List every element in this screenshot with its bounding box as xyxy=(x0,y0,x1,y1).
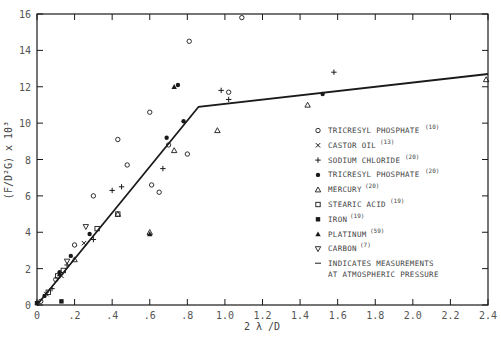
data-point xyxy=(148,110,152,114)
x-tick-label: 1.8 xyxy=(366,310,384,321)
legend-label: TRICRESYL PHOSPHATE xyxy=(328,126,420,135)
x-tick-label: 1.6 xyxy=(329,310,347,321)
legend-item: TRICRESYL PHOSPHATE(10) xyxy=(316,123,440,135)
series-sodium-chloride-20 xyxy=(49,70,336,292)
data-point xyxy=(157,190,161,194)
legend-marker-icon xyxy=(315,247,320,252)
legend-item: CASTOR OIL(13) xyxy=(316,138,395,150)
data-point xyxy=(87,232,91,236)
y-tick-label: 8 xyxy=(25,155,31,166)
legend-reference: (7) xyxy=(360,241,371,248)
data-point xyxy=(83,225,88,230)
data-point xyxy=(160,166,165,171)
data-point xyxy=(109,188,114,193)
data-point xyxy=(164,135,168,139)
data-point xyxy=(226,97,231,102)
legend-label: TRICRESYL PHOSPHATE xyxy=(328,170,420,179)
data-point xyxy=(69,254,73,258)
y-axis-title: (F/D²G) x 10³ xyxy=(3,121,14,199)
legend-marker-icon xyxy=(316,217,320,221)
data-point xyxy=(91,194,95,198)
legend-marker-icon xyxy=(315,231,320,236)
legend-label: CASTOR OIL xyxy=(328,141,376,150)
legend: TRICRESYL PHOSPHATE(10)CASTOR OIL(13)SOD… xyxy=(315,123,439,279)
legend-note-line2: AT ATMOSPHERIC PRESSURE xyxy=(328,270,439,279)
legend-item: CARBON(7) xyxy=(315,241,371,253)
legend-label: IRON xyxy=(328,215,347,224)
legend-label: MERCURY xyxy=(328,185,362,194)
legend-marker-icon xyxy=(316,173,320,177)
legend-item: PLATINUM(59) xyxy=(315,227,384,239)
data-point xyxy=(305,102,310,107)
data-point xyxy=(35,301,39,305)
legend-label: CARBON xyxy=(328,244,357,253)
legend-reference: (20) xyxy=(425,167,439,174)
legend-item: STEARIC ACID(19) xyxy=(316,197,405,209)
data-point xyxy=(149,183,153,187)
data-point xyxy=(119,184,124,189)
y-tick-label: 12 xyxy=(19,82,31,93)
data-point xyxy=(185,152,189,156)
x-tick-label: 1.2 xyxy=(253,310,271,321)
legend-item: MERCURY(20) xyxy=(315,182,379,194)
x-tick-label: .6 xyxy=(144,310,156,321)
legend-note-line1: INDICATES MEASUREMENTS xyxy=(328,259,434,268)
legend-marker-icon xyxy=(315,187,320,192)
x-tick-label: 1.4 xyxy=(291,310,309,321)
data-point xyxy=(116,137,120,141)
data-point xyxy=(125,163,129,167)
y-tick-label: 10 xyxy=(19,118,31,129)
x-tick-label: 2.0 xyxy=(404,310,422,321)
legend-item: IRON(19) xyxy=(316,212,365,224)
data-point xyxy=(320,92,324,96)
x-axis-title: 2 λ /D xyxy=(244,321,280,332)
legend-note: INDICATES MEASUREMENTSAT ATMOSPHERIC PRE… xyxy=(315,259,439,279)
legend-label: STEARIC ACID xyxy=(328,200,386,209)
legend-reference: (19) xyxy=(350,212,364,219)
chart: 0.2.4.6.81.01.21.41.61.82.02.22.4 024681… xyxy=(0,0,501,345)
legend-reference: (20) xyxy=(365,182,379,189)
x-tick-label: .8 xyxy=(181,310,193,321)
x-tick-label: 1.0 xyxy=(216,310,234,321)
legend-marker-icon xyxy=(315,157,320,162)
legend-reference: (19) xyxy=(390,197,404,204)
x-tick-label: .4 xyxy=(106,310,118,321)
data-point xyxy=(331,70,336,75)
data-point xyxy=(240,15,244,19)
legend-reference: (59) xyxy=(370,227,384,234)
y-tick-label: 6 xyxy=(25,191,31,202)
data-point xyxy=(181,119,185,123)
x-tick-label: 2.4 xyxy=(479,310,497,321)
legend-marker-icon xyxy=(316,202,320,206)
x-tick-label: 2.2 xyxy=(441,310,459,321)
legend-reference: (20) xyxy=(405,153,419,160)
data-point xyxy=(72,243,76,247)
legend-marker-icon xyxy=(316,128,320,132)
data-point xyxy=(218,88,223,93)
data-point xyxy=(171,148,176,153)
data-point xyxy=(187,39,191,43)
data-point xyxy=(215,128,220,133)
y-tick-label: 4 xyxy=(25,227,31,238)
legend-reference: (10) xyxy=(425,123,439,130)
data-point xyxy=(59,299,63,303)
y-tick-label: 2 xyxy=(25,264,31,275)
legend-item: SODIUM CHLORIDE(20) xyxy=(315,153,419,165)
series-tricresyl-phosphate-20 xyxy=(42,83,325,298)
data-point xyxy=(176,83,180,87)
data-point xyxy=(226,90,230,94)
y-tick-label: 14 xyxy=(19,45,31,56)
y-tick-label: 16 xyxy=(19,9,31,20)
y-tick-label: 0 xyxy=(25,300,31,311)
x-tick-label: .2 xyxy=(69,310,81,321)
legend-label: SODIUM CHLORIDE xyxy=(328,156,400,165)
x-tick-label: 0 xyxy=(34,310,40,321)
data-point xyxy=(82,241,86,245)
legend-label: PLATINUM xyxy=(328,230,367,239)
data-point xyxy=(64,259,69,264)
legend-item: TRICRESYL PHOSPHATE(20) xyxy=(316,167,440,179)
legend-marker-icon xyxy=(316,143,320,147)
legend-reference: (13) xyxy=(380,138,394,145)
